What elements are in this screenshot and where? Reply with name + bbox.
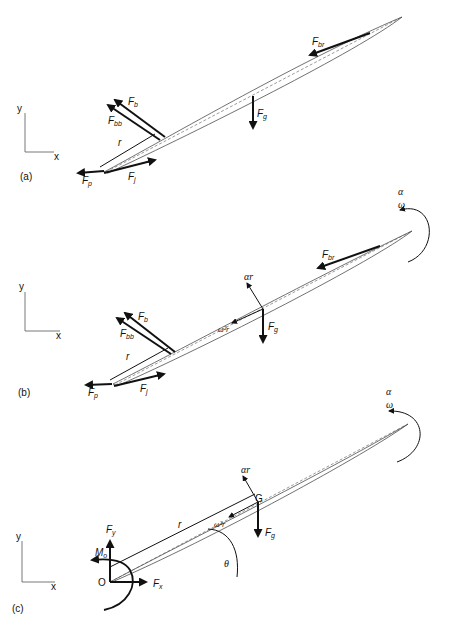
axis-y-label: y bbox=[17, 103, 22, 114]
tangential-accel-arrow bbox=[247, 283, 263, 309]
label-fg: Fg bbox=[268, 321, 278, 334]
label-fp: Fp bbox=[88, 387, 98, 400]
axis-y-label: y bbox=[16, 531, 21, 542]
force-arrow-fp bbox=[86, 384, 112, 385]
panel-b: y x (b) r α ω Fbr αr ω²r Fg Fb Fbb Fp bbox=[18, 186, 429, 400]
panel-a: y x (a) r Fbr Fg Fb Fbb Fp Fj bbox=[17, 17, 402, 188]
r-label: r bbox=[178, 519, 182, 530]
r-label: r bbox=[118, 137, 122, 148]
label-fy: Fy bbox=[106, 524, 116, 537]
label-fg: Fg bbox=[265, 527, 275, 540]
alpha-label: α bbox=[386, 386, 392, 397]
centripetal-accel-arrow bbox=[229, 502, 258, 517]
label-fj: Fj bbox=[128, 171, 136, 184]
force-arrow-fp bbox=[78, 171, 104, 173]
label-fb: Fb bbox=[138, 311, 148, 323]
axes-c: y x bbox=[16, 531, 56, 592]
label-fg: Fg bbox=[257, 108, 267, 121]
label-mo: Mo bbox=[95, 547, 107, 559]
label-fbb: Fbb bbox=[120, 328, 134, 340]
panel-label-b: (b) bbox=[18, 387, 30, 398]
label-fbr: Fbr bbox=[322, 249, 335, 261]
omega2-r-label: ω²r bbox=[218, 325, 230, 334]
axis-x-label: x bbox=[56, 330, 61, 341]
label-fb: Fb bbox=[128, 96, 138, 108]
theta-arc bbox=[208, 529, 238, 577]
axis-y-label: y bbox=[19, 281, 24, 292]
free-body-diagrams: y x (a) r Fbr Fg Fb Fbb Fp Fj y x bbox=[0, 0, 452, 627]
panel-label-c: (c) bbox=[12, 603, 24, 614]
panel-label-a: (a) bbox=[20, 171, 32, 182]
angular-velocity-arc bbox=[400, 209, 429, 262]
axis-x-label: x bbox=[54, 151, 59, 162]
axes-b: y x bbox=[19, 281, 61, 341]
alpha-r-label: αr bbox=[241, 464, 250, 475]
force-arrow-fb bbox=[115, 100, 165, 137]
label-fbr: Fbr bbox=[312, 36, 325, 48]
omega-label: ω bbox=[398, 199, 405, 210]
label-fbb: Fbb bbox=[108, 115, 122, 127]
origin-label: O bbox=[98, 577, 106, 588]
alpha-label: α bbox=[398, 186, 404, 197]
theta-label: θ bbox=[224, 558, 229, 569]
centripetal-accel-arrow bbox=[232, 309, 263, 323]
angular-velocity-arc bbox=[389, 411, 420, 462]
panel-c: y x (c) r α ω G αr ω²r Fg θ O Fy Fx bbox=[12, 386, 420, 614]
axes-a: y x bbox=[17, 103, 59, 162]
label-fj: Fj bbox=[140, 383, 148, 396]
label-fx: Fx bbox=[153, 578, 163, 590]
r-label: r bbox=[126, 351, 130, 362]
label-fp: Fp bbox=[82, 175, 92, 188]
axis-x-label: x bbox=[51, 581, 56, 592]
tangential-accel-arrow bbox=[243, 476, 258, 502]
omega-label: ω bbox=[386, 399, 393, 410]
omega2-r-label: ω²r bbox=[214, 520, 226, 529]
alpha-r-label: αr bbox=[244, 271, 253, 282]
